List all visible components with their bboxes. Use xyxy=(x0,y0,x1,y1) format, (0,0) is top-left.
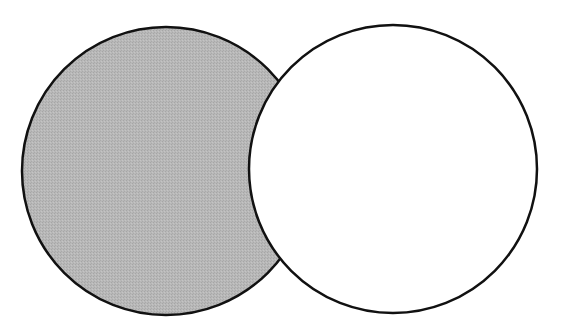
venn-diagram-svg xyxy=(0,0,563,325)
set-b-circle xyxy=(249,25,537,313)
venn-diagram xyxy=(0,0,563,325)
